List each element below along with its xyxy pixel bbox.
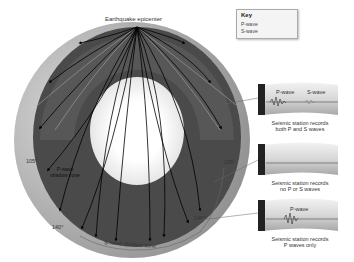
- station-1-s-wave-label: S-wave: [307, 89, 325, 95]
- angle-left-105: 105°: [26, 158, 37, 164]
- epicenter-label: Earthquake epicenter: [105, 16, 162, 23]
- angle-right-140: 140°: [194, 215, 205, 221]
- station-3-caption: Seismic station records P waves only: [262, 236, 338, 248]
- station-1-caption: Seismic station records both P and S wav…: [262, 120, 338, 132]
- angle-left-140: 140°: [52, 224, 63, 230]
- station-drum-1: [258, 83, 338, 116]
- legend-key: Key P-wave S-wave: [236, 9, 298, 39]
- p-wave-shadow-zone-label: P-wave shadow zone: [50, 167, 80, 178]
- key-title: Key: [241, 12, 252, 18]
- station-3-p-wave-label: P-wave: [290, 206, 308, 212]
- angle-right-105: 105°: [224, 159, 235, 165]
- station-1-p-wave-label: P-wave: [276, 89, 294, 95]
- key-p-wave-label: P-wave: [241, 21, 258, 27]
- station-2-caption-line2: no P or S waves: [262, 186, 338, 192]
- station-drum-3: [258, 199, 338, 232]
- station-3-caption-line2: P waves only: [262, 242, 338, 248]
- station-drum-2: [258, 143, 338, 176]
- station-2-caption: Seismic station records no P or S waves: [262, 180, 338, 192]
- globe: [14, 22, 250, 258]
- station-1-caption-line2: both P and S waves: [262, 126, 338, 132]
- key-s-wave-label: S-wave: [241, 28, 258, 34]
